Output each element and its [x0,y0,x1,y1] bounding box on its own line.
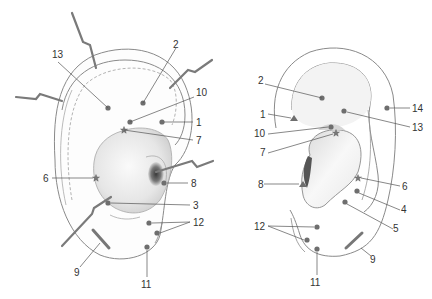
left-label-11: 11 [141,279,152,290]
right-label-9: 9 [370,254,376,265]
left-label-10: 10 [196,87,208,98]
left-point-11 [144,244,149,249]
probe-left [16,94,62,101]
right-point-11 [314,246,319,251]
right-antihelix-line [362,110,370,200]
left-point-1 [159,119,164,124]
right-label-7: 7 [260,147,266,158]
right-point-10 [328,124,333,129]
right-label-11: 11 [310,277,321,288]
right-label-4: 4 [401,204,407,215]
right-point-4 [354,188,359,193]
right-point-5 [342,199,347,204]
right-label-12: 12 [254,221,266,232]
right-lobe-line [291,218,305,252]
right-point-12a [314,224,319,229]
right-label-1: 1 [260,109,266,120]
right-point-13 [341,108,346,113]
right-bar-9-marker [346,233,362,248]
right-label-5: 5 [393,223,399,234]
left-label-6: 6 [43,173,49,184]
right-point-14 [384,105,389,110]
right-fossa-fill [292,63,371,128]
left-label-3: 3 [193,200,199,211]
left-label-9: 9 [74,267,80,278]
left-label-1: 1 [196,117,202,128]
left-label-2: 2 [173,39,179,50]
right-point-12b [304,237,309,242]
left-point-3 [105,200,110,205]
left-point-8 [161,180,166,185]
left-label-7: 7 [196,135,202,146]
ear-acupoint-diagram: 13 2 10 1 7 6 8 3 12 9 11 [0,0,432,299]
left-label-8: 8 [191,178,197,189]
right-label-14: 14 [412,103,424,114]
right-label-6: 6 [402,181,408,192]
left-label-13: 13 [52,49,64,60]
left-point-12a [146,220,151,225]
left-point-12b [154,230,159,235]
left-label-12: 12 [193,217,205,228]
right-label-10: 10 [254,128,266,139]
right-label-2: 2 [258,75,264,86]
right-label-8: 8 [258,179,264,190]
right-ear: 2 1 10 7 14 13 8 6 4 5 12 9 11 [254,48,424,288]
right-label-13: 13 [412,122,424,133]
left-ear: 13 2 10 1 7 6 8 3 12 9 11 [16,13,213,290]
